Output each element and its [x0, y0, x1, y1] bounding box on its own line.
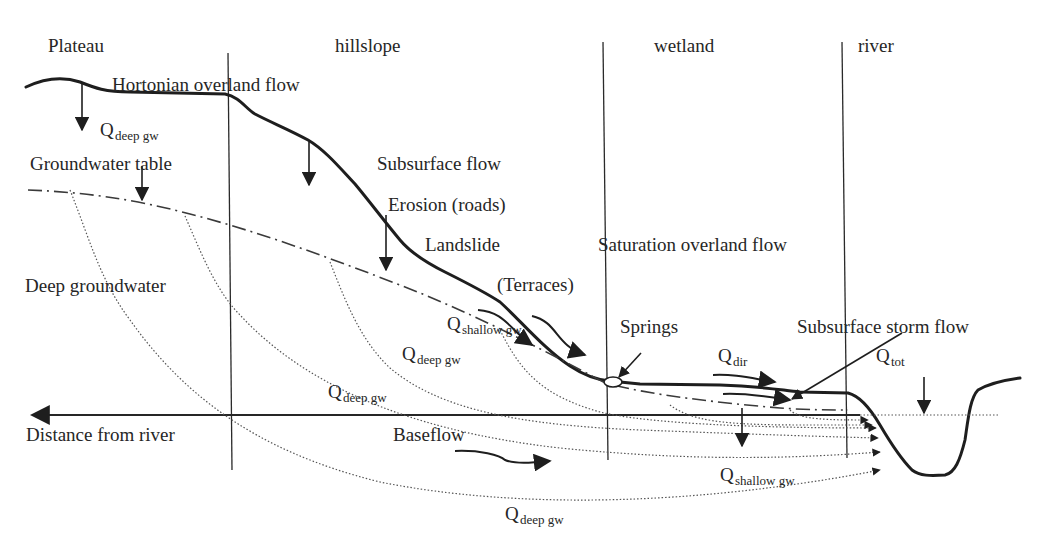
qdir-arrow [713, 375, 775, 382]
zone-label-wetland: wetland [654, 35, 715, 56]
svg-text:Q: Q [402, 343, 416, 364]
flux-label-qtot: Q tot [876, 345, 905, 369]
label-springs: Springs [620, 316, 678, 337]
label-hortonian-overland-flow: Hortonian overland flow [112, 74, 300, 95]
flux-label-qdir: Q dir [718, 345, 748, 369]
label-deep-groundwater: Deep groundwater [25, 275, 167, 296]
label-groundwater-table: Groundwater table [30, 153, 172, 174]
svg-text:Q: Q [876, 345, 890, 366]
baseflow-arrow [455, 451, 550, 463]
svg-text:Q: Q [447, 313, 461, 334]
zone-label-river: river [858, 35, 895, 56]
svg-text:deep gw: deep gw [115, 128, 159, 143]
svg-text:Q: Q [718, 345, 732, 366]
storm-flow-pointer [792, 333, 902, 399]
flux-label-qdeep-hillslope: Q deep gw [402, 343, 461, 367]
flux-label-qshallow-wetland: Q shallow gw [720, 464, 795, 488]
label-subsurface-storm-flow: Subsurface storm flow [797, 316, 969, 337]
svg-text:shallow gw: shallow gw [735, 473, 795, 488]
svg-text:tot: tot [891, 354, 905, 369]
svg-text:Q: Q [100, 119, 114, 140]
groundwater-table-line [28, 190, 848, 410]
label-distance-from-river: Distance from river [26, 424, 175, 445]
svg-text:Q: Q [505, 503, 519, 524]
flux-label-qshallow-hillslope: Q shallow gw [447, 313, 522, 337]
label-saturation-overland-flow: Saturation overland flow [598, 234, 787, 255]
zone-label-hillslope: hillslope [335, 35, 400, 56]
springs-marker [604, 377, 622, 387]
svg-text:deep gw: deep gw [343, 390, 387, 405]
shallow-flowpath-1 [500, 330, 876, 428]
divider-plateau-hillslope [228, 53, 232, 470]
svg-text:Q: Q [720, 464, 734, 485]
svg-text:dir: dir [733, 354, 748, 369]
svg-text:deep gw: deep gw [417, 352, 461, 367]
label-erosion-roads: Erosion (roads) [388, 194, 506, 216]
hydrology-diagram: Plateau hillslope wetland river Hortonia… [0, 0, 1040, 550]
zone-label-plateau: Plateau [48, 35, 104, 56]
divider-wetland-river [842, 42, 847, 458]
flux-label-qdeep-plateau: Q deep gw [100, 119, 159, 143]
label-landslide: Landslide [425, 234, 500, 255]
svg-text:deep gw: deep gw [520, 512, 564, 527]
label-terraces: (Terraces) [497, 274, 574, 296]
storm-flow-arrow [723, 394, 790, 400]
label-baseflow: Baseflow [393, 424, 465, 445]
flux-label-qdeep-lower: Q deep gw [328, 381, 387, 405]
label-subsurface-flow: Subsurface flow [377, 153, 501, 174]
flux-label-qdeep-bottom: Q deep gw [505, 503, 564, 527]
svg-text:shallow gw: shallow gw [462, 322, 522, 337]
springs-pointer [619, 353, 641, 377]
svg-text:Q: Q [328, 381, 342, 402]
